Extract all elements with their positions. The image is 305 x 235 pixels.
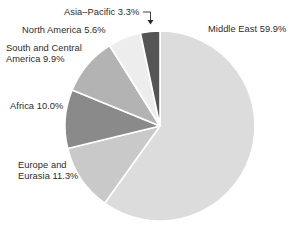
slice-label-africa: Africa 10.0% <box>10 101 63 112</box>
pie-slice-layer <box>65 31 255 221</box>
slice-label-south-and-central-america-line1: South and Central <box>6 43 82 54</box>
asia-pacific-leader-arrow <box>147 20 153 25</box>
slice-label-europe-and-eurasia-line1: Europe and <box>18 160 78 171</box>
slice-label-north-america: North America 5.6% <box>22 25 106 36</box>
asia-pacific-leader-line <box>143 12 151 20</box>
slice-label-asia-pacific-text: Asia–Pacific 3.3% <box>64 7 139 17</box>
slice-label-asia-pacific: Asia–Pacific 3.3% <box>64 7 139 18</box>
slice-label-middle-east-text: Middle East 59.9% <box>208 24 286 34</box>
leader-line-layer <box>143 12 153 25</box>
slice-label-north-america-text: North America 5.6% <box>22 25 106 35</box>
slice-label-africa-text: Africa 10.0% <box>10 101 63 111</box>
slice-label-south-and-central-america: South and Central America 9.9% <box>6 43 82 66</box>
pie-chart: Middle East 59.9% Asia–Pacific 3.3% Nort… <box>0 0 305 235</box>
slice-label-middle-east: Middle East 59.9% <box>208 24 286 35</box>
slice-label-south-and-central-america-line2: America 9.9% <box>6 54 82 65</box>
slice-label-europe-and-eurasia: Europe and Eurasia 11.3% <box>18 160 78 183</box>
slice-label-europe-and-eurasia-line2: Eurasia 11.3% <box>18 171 78 182</box>
